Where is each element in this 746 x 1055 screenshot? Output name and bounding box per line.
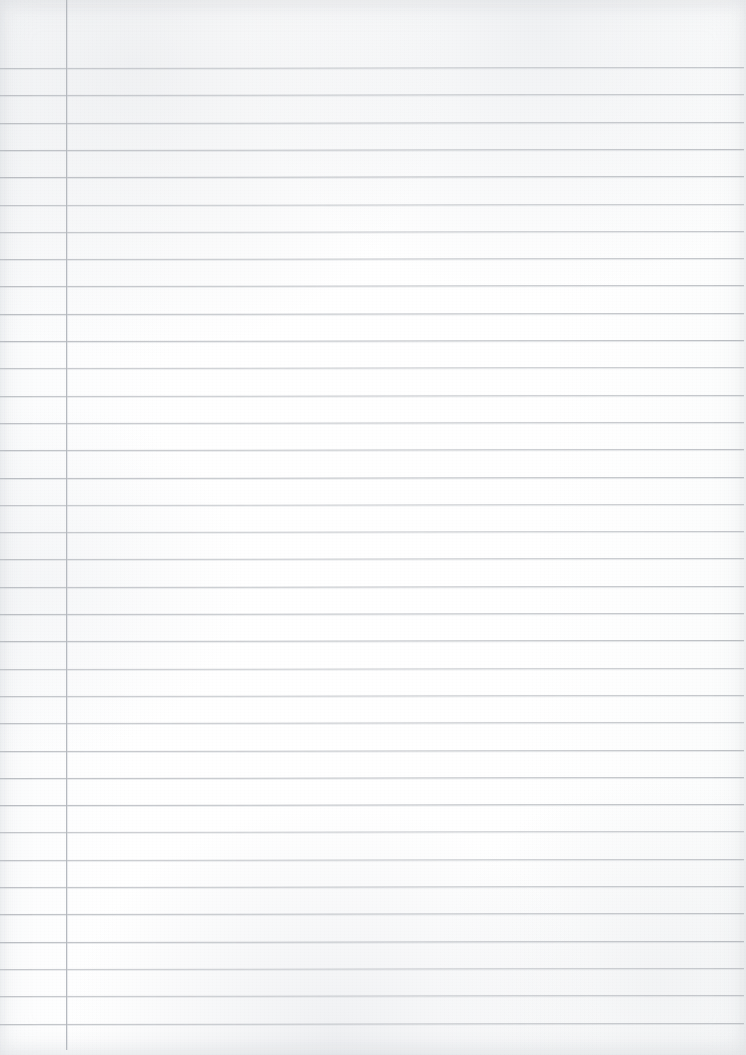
writing-area [67, 68, 744, 1025]
notebook-page [0, 0, 746, 1055]
